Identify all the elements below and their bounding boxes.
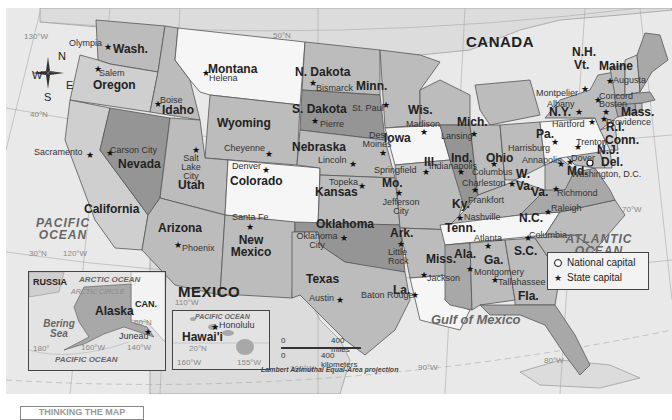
state-label-nevada: Nevada — [118, 158, 161, 170]
scale-zero-miles: 0 — [281, 336, 285, 345]
state-label-mich: Mich. — [457, 116, 488, 128]
grid-ak-60n: 60°N — [134, 319, 152, 327]
capital-salem: Salem — [99, 69, 125, 78]
star-icon: ★ — [588, 118, 596, 127]
label-bering-sea: Bering Sea — [39, 319, 79, 339]
star-icon: ★ — [466, 265, 474, 274]
state-wyoming — [205, 95, 300, 165]
capital-columbia: Columbia — [529, 231, 567, 240]
capital-boston: Boston — [599, 100, 627, 109]
capital-raleigh: Raleigh — [551, 204, 582, 213]
capital-charleston: Charleston — [462, 179, 506, 188]
capital-providence: Providence — [606, 118, 651, 127]
compass-w: W — [32, 70, 42, 81]
legend-row-state: ★ State capital — [554, 272, 622, 283]
capital-jackson: Jackson — [427, 274, 460, 283]
star-icon: ★ — [262, 166, 270, 175]
capital-hartford: Hartford — [552, 120, 585, 129]
state-label-conn: Conn. — [605, 134, 639, 146]
star-icon: ★ — [508, 180, 516, 189]
grid-110w: 110°W — [175, 299, 199, 307]
state-label-california: California — [84, 203, 139, 215]
state-label-nebraska: Nebraska — [292, 141, 346, 153]
capital-frankfort: Frankfort — [468, 196, 504, 205]
capital-denver: Denver — [232, 162, 261, 171]
state-label-minn: Minn. — [356, 80, 387, 92]
label-pacific-ocean-hawaii: PACIFIC OCEAN — [195, 313, 250, 320]
star-icon: ★ — [581, 85, 589, 94]
grid-130w: 130°W — [24, 33, 48, 41]
grid-hi-20n: 20°N — [189, 345, 207, 353]
capital-cheyenne: Cheyenne — [224, 144, 265, 153]
state-label-n-dakota: N. Dakota — [295, 66, 350, 78]
capital-montpelier: Montpelier — [536, 89, 578, 98]
capital-sacramento: Sacramento — [34, 148, 83, 157]
capital-annapolis: Annapolis — [522, 156, 562, 165]
state-label-colorado: Colorado — [230, 175, 283, 187]
grid-30n: 30°N — [29, 250, 47, 258]
star-icon: ★ — [336, 296, 344, 305]
grid-hi-155w: 155°W — [237, 359, 261, 367]
capital-honolulu: Honolulu — [219, 321, 255, 330]
map-legend: National capital ★ State capital — [547, 252, 649, 290]
capital-santa-fe: Santa Fe — [232, 213, 269, 222]
star-icon: ★ — [484, 242, 492, 251]
state-label-hawaii: Hawai'i — [182, 331, 223, 343]
capital-pierre: Pierre — [320, 120, 344, 129]
label-mexico: MEXICO — [178, 284, 240, 299]
compass-n: N — [58, 51, 66, 62]
legend-state-label: State capital — [567, 272, 622, 283]
state-label-s-dakota: S. Dakota — [292, 103, 347, 115]
capital-baton-rouge: Baton Rouge — [361, 291, 414, 300]
compass-e: E — [66, 80, 73, 91]
state-label-arizona: Arizona — [158, 222, 202, 234]
capital-lansing: Lansing — [441, 132, 473, 141]
state-label-texas: Texas — [306, 273, 339, 285]
national-capital-icon — [554, 259, 562, 267]
star-icon: ★ — [420, 128, 428, 137]
label-arctic-ocean: ARCTIC OCEAN — [79, 276, 140, 284]
state-label-del: Del. — [601, 156, 623, 168]
state-label-kansas: Kansas — [315, 186, 358, 198]
capital-columbus: Columbus — [472, 168, 513, 177]
label-russia: RUSSIA — [33, 278, 67, 287]
capital-concord: Concord — [599, 92, 633, 101]
grid-120w: 120°W — [63, 250, 87, 258]
scale-line — [281, 347, 361, 349]
state-label-miss: Miss. — [426, 253, 456, 265]
capital-springfield: Springfield — [374, 166, 417, 175]
capital-madison: Madison — [406, 120, 440, 129]
state-label-ala: Ala. — [454, 248, 476, 260]
us-political-map: N W E S 130°W 40°N 50°N 30°N 120°W 110°W… — [6, 8, 672, 394]
star-icon: ★ — [456, 214, 464, 223]
state-label-maine: Maine — [599, 60, 633, 72]
state-label-ark: Ark. — [390, 227, 413, 239]
grid-ak-140w: 140°W — [127, 344, 151, 352]
capital-salt-lake-city: Salt Lake City — [174, 154, 208, 181]
state-label-nh: N.H. — [572, 46, 596, 58]
state-label-tenn: Tenn. — [445, 222, 476, 234]
capital-bismarck: Bismarck — [316, 84, 353, 93]
star-icon: ★ — [265, 150, 273, 159]
capital-oklahoma-city: Oklahoma City — [292, 232, 342, 250]
state-label-new-mexico: New Mexico — [221, 234, 281, 258]
star-icon: ★ — [311, 117, 319, 126]
state-label-idaho: Idaho — [162, 104, 194, 116]
capital-juneau: Juneau — [119, 332, 149, 341]
star-icon: ★ — [575, 108, 583, 117]
capital-boise: Boise — [160, 96, 183, 105]
grid-70w: 70°W — [622, 206, 642, 214]
hawaii-inset: PACIFIC OCEAN ★ Honolulu Hawai'i 20°N 16… — [172, 310, 270, 370]
state-label-oregon: Oregon — [93, 79, 136, 91]
grid-80w: 80°W — [544, 357, 564, 365]
grid-40n: 40°N — [30, 111, 48, 119]
alaska-inset: RUSSIA ARCTIC OCEAN ARCTIC CIRCLE Alaska… — [28, 271, 166, 371]
star-icon: ★ — [358, 182, 366, 191]
state-label-sc: S.C. — [514, 245, 537, 257]
capital-st-paul: St. Paul — [352, 104, 384, 113]
star-icon: ★ — [86, 151, 94, 160]
thinking-the-map-heading: THINKING THE MAP — [20, 406, 144, 420]
capital-austin: Austin — [309, 294, 334, 303]
star-icon: ★ — [104, 43, 112, 52]
scale-bar: 0 400 miles 0 400 kilometers — [281, 336, 361, 362]
